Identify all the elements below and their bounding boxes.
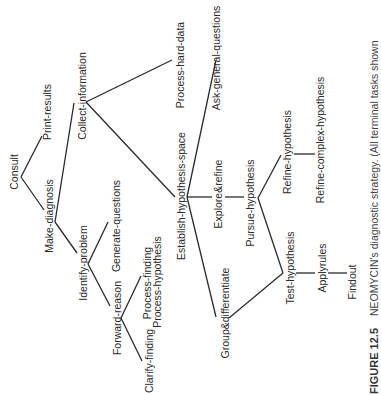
caption-label: FIGURE 12.5: [368, 328, 380, 394]
node-explore-refine: Explore&refine: [212, 159, 224, 228]
edge-make-diagnosis-identify-problem: [55, 222, 77, 253]
edge-identify-problem-generate-questions: [88, 222, 108, 264]
edge-forward-reason-clarify-finding: [121, 318, 142, 361]
node-pursue-hypothesis: Pursue-hypothesis: [244, 160, 256, 247]
node-clarify-finding: Clarify-finding: [143, 329, 155, 393]
edge-identify-problem-forward-reason: [88, 264, 110, 306]
node-refine-hypothesis: Refine-hypothesis: [281, 110, 293, 194]
edge-consult-print-results: [21, 136, 42, 177]
edge-consult-make-diagnosis: [21, 177, 44, 210]
node-group-differentiate: Group&differentiate: [219, 267, 231, 358]
node-identify-problem: Identify-problem: [77, 225, 89, 301]
node-make-diagnosis: Make-diagnosis: [43, 179, 55, 253]
node-forward-reason: Forward-reason: [111, 281, 123, 355]
edge-group-differentiate-test-hypothesis: [229, 273, 283, 318]
node-establish-hypothesis-space: Establish-hypothesis-space: [175, 132, 187, 260]
node-test-hypothesis: Test-hypothesis: [284, 232, 296, 305]
node-refine-complex-hypothesis: Refine-complex-hypothesis: [314, 77, 326, 204]
edge-forward-reason-process-finding: [121, 276, 141, 318]
node-generate-questions: Generate-questions: [110, 180, 122, 272]
node-process-hard-data: Process-hard-data: [174, 22, 186, 109]
node-applyrules: Applyrules: [316, 243, 328, 292]
node-collect-information: Collect-information: [76, 52, 88, 140]
node-findout: Findout: [346, 264, 358, 299]
edge-collect-information-process-hard-data: [86, 60, 172, 102]
tree-nodes: Consult Print-results Make-diagnosis Col…: [8, 6, 358, 393]
edge-pursue-refine-hypothesis: [258, 155, 281, 198]
node-print-results: Print-results: [41, 84, 53, 140]
node-ask-general-questions: Ask-general-questions: [210, 6, 222, 110]
node-process-hypothesis: Process-hypothesis: [151, 236, 163, 328]
diagram-canvas: Consult Print-results Make-diagnosis Col…: [0, 0, 381, 395]
node-consult: Consult: [8, 154, 20, 190]
edge-pursue-test-hypothesis: [258, 198, 283, 273]
edge-collect-information-establish: [86, 102, 175, 197]
edge-make-diagnosis-collect-information: [55, 103, 74, 222]
caption-text: NEOMYCIN's diagnostic strategy. (All ter…: [368, 40, 380, 316]
figure-caption: FIGURE 12.5 NEOMYCIN's diagnostic strate…: [368, 40, 380, 394]
